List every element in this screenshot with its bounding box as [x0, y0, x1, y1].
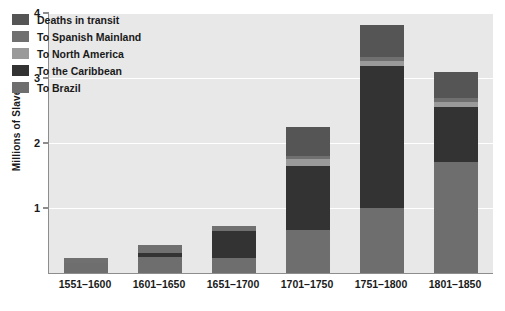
y-axis-tick-label: 2 [34, 137, 40, 149]
y-axis-tick [43, 142, 49, 144]
legend-swatch-icon [12, 65, 29, 76]
bar[interactable] [434, 72, 478, 273]
legend-item[interactable]: Deaths in transit [12, 12, 141, 27]
legend-item[interactable]: To Spanish Mainland [12, 29, 141, 44]
x-axis-tick-label: 1601–1650 [133, 278, 186, 290]
bar[interactable] [212, 226, 256, 273]
legend-item-label: To the Caribbean [37, 65, 122, 77]
bar-segment[interactable] [212, 231, 256, 258]
bar-segment[interactable] [138, 245, 182, 253]
bar[interactable] [360, 25, 404, 273]
legend-item-label: To Spanish Mainland [37, 31, 141, 43]
chart-figure: Millions of Slaves 1234 Deaths in transi… [0, 0, 505, 311]
bar-segment[interactable] [434, 72, 478, 98]
bar-segment[interactable] [286, 230, 330, 273]
bar-segment[interactable] [64, 263, 108, 273]
bar-segment[interactable] [286, 159, 330, 166]
legend-swatch-icon [12, 82, 29, 93]
bar-segment[interactable] [434, 162, 478, 273]
legend-item[interactable]: To Brazil [12, 80, 141, 95]
bar[interactable] [138, 245, 182, 273]
x-axis-tick-label: 1701–1750 [281, 278, 334, 290]
bar-segment[interactable] [212, 258, 256, 273]
legend-item-label: To North America [37, 48, 124, 60]
chart-legend: Deaths in transitTo Spanish MainlandTo N… [12, 12, 141, 97]
x-axis-tick-label: 1551–1600 [59, 278, 112, 290]
legend-swatch-icon [12, 48, 29, 59]
bar-segment[interactable] [286, 166, 330, 230]
gridline [49, 143, 493, 144]
bar-segment[interactable] [360, 208, 404, 273]
legend-item[interactable]: To North America [12, 46, 141, 61]
y-axis-tick [43, 207, 49, 209]
bar[interactable] [64, 258, 108, 273]
legend-item[interactable]: To the Caribbean [12, 63, 141, 78]
bar-segment[interactable] [360, 25, 404, 57]
x-axis-tick-label: 1801–1850 [429, 278, 482, 290]
legend-swatch-icon [12, 14, 29, 25]
legend-item-label: Deaths in transit [37, 14, 119, 26]
bar[interactable] [286, 127, 330, 273]
legend-item-label: To Brazil [37, 82, 81, 94]
y-axis-tick-label: 1 [34, 202, 40, 214]
bar-segment[interactable] [360, 66, 404, 208]
legend-swatch-icon [12, 31, 29, 42]
bar-segment[interactable] [138, 257, 182, 273]
gridline [49, 208, 493, 209]
bar-segment[interactable] [434, 107, 478, 162]
x-axis-tick-label: 1651–1700 [207, 278, 260, 290]
bar-segment[interactable] [286, 127, 330, 156]
x-axis-tick-label: 1751–1800 [355, 278, 408, 290]
